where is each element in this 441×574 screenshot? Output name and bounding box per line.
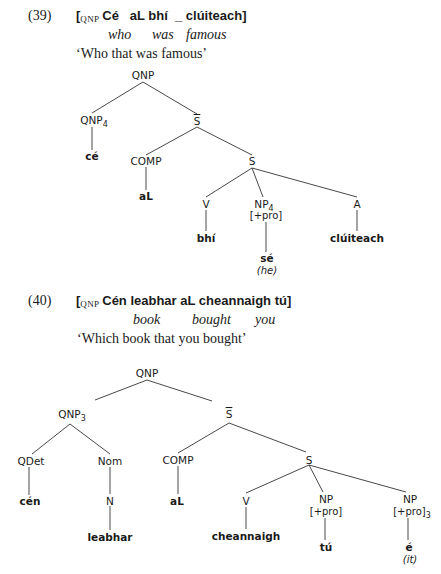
node-comp: COMP xyxy=(163,454,194,466)
leaf-e-gloss: (it) xyxy=(403,554,418,566)
node-qdet: QDet xyxy=(18,455,45,467)
node-s-bar: S xyxy=(226,408,233,420)
leaf-leabhar: leabhar xyxy=(87,531,132,543)
node-s: S xyxy=(306,454,313,466)
node-nom: Nom xyxy=(98,455,123,467)
node-np: NP xyxy=(319,493,333,505)
leaf-cheannaigh: cheannaigh xyxy=(212,530,281,542)
leaf-e: é xyxy=(405,541,412,553)
node-n: N xyxy=(106,495,114,507)
feature-pro: [+pro] xyxy=(310,506,343,518)
leaf-tu: tú xyxy=(320,541,333,553)
node-qnp3: QNP3 xyxy=(58,408,86,425)
leaf-cen: cén xyxy=(20,495,41,507)
node-qnp: QNP xyxy=(136,367,158,379)
leaf-al: aL xyxy=(170,495,184,507)
feature-pro-indexed: [+pro]3 xyxy=(393,506,431,522)
tree-40-branches xyxy=(0,0,441,574)
node-v: V xyxy=(242,495,249,507)
node-np-indexed: NP xyxy=(403,493,417,505)
